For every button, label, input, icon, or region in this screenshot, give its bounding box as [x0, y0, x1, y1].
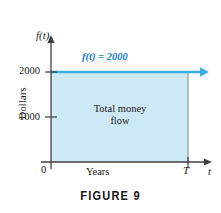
- x-tick-label-T: T: [183, 165, 189, 176]
- y-axis-title: Dollars: [18, 73, 29, 133]
- region-annotation-line2: flow: [58, 115, 182, 127]
- region-annotation-line1: Total money: [94, 103, 147, 114]
- plot-svg: [0, 0, 221, 190]
- plot-area: f(t) t 2000 1000 0 T Dollars Years f(t) …: [0, 0, 221, 190]
- function-annotation-label: f(t) = 2000: [82, 52, 128, 63]
- figure-caption: FIGURE 9: [13, 189, 207, 203]
- figure-container: f(t) t 2000 1000 0 T Dollars Years f(t) …: [0, 0, 221, 213]
- y-axis-variable-label: f(t): [36, 30, 49, 41]
- x-axis-variable-label: t: [208, 166, 211, 177]
- region-annotation-label: Total money flow: [58, 103, 182, 128]
- origin-label: 0: [41, 165, 46, 176]
- x-axis-title: Years: [86, 167, 109, 178]
- function-line-arrowhead: [200, 67, 209, 77]
